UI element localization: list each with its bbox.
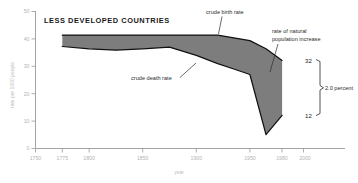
crude-death-rate-leader-line xyxy=(180,63,196,78)
x-tick-label-1950: 1950 xyxy=(244,155,256,161)
x-tick-label-1850: 1850 xyxy=(137,155,149,161)
natural-increase-label-line2: population increase xyxy=(272,36,321,42)
x-tick-label-1750: 1750 xyxy=(30,155,42,161)
y-tick-label-10: 10 xyxy=(24,118,30,124)
y-axis-title: rate per 1000 people xyxy=(9,62,15,108)
x-tick-label-2000: 2000 xyxy=(299,155,311,161)
percent-bracket xyxy=(316,60,324,116)
bracket-span-label: 2.0 percent xyxy=(325,85,353,91)
y-tick-label-30: 30 xyxy=(24,63,30,69)
x-tick-label-1775: 1775 xyxy=(57,155,69,161)
natural-increase-shaded-area xyxy=(62,35,282,135)
annotation-crude-death-rate: crude death rate xyxy=(131,63,196,81)
chart-page: 0 10 20 30 40 50 rate per 1000 people 17… xyxy=(0,0,358,183)
x-axis-ticks: 1750 1775 1800 1850 1900 1950 1980 2000 xyxy=(30,149,311,162)
crude-birth-rate-leader-line xyxy=(219,17,223,35)
x-tick-label-1800: 1800 xyxy=(83,155,95,161)
natural-increase-label-line1: rate of natural xyxy=(272,28,307,34)
bracket-top-value: 32 xyxy=(305,57,312,64)
y-axis-ticks: 0 10 20 30 40 50 xyxy=(24,8,36,151)
bracket-bottom-value: 12 xyxy=(305,112,312,119)
crude-death-rate-label: crude death rate xyxy=(131,75,172,81)
y-tick-label-50: 50 xyxy=(24,8,30,14)
x-tick-label-1980: 1980 xyxy=(276,155,288,161)
x-tick-label-1900: 1900 xyxy=(191,155,203,161)
y-tick-label-20: 20 xyxy=(24,91,30,97)
y-tick-label-40: 40 xyxy=(24,36,30,42)
chart-title: LESS DEVELOPED COUNTRIES xyxy=(44,16,170,25)
crude-birth-rate-label: crude birth rate xyxy=(206,9,244,15)
x-axis-title: year xyxy=(174,169,184,175)
endpoint-bracket-group: 32 12 2.0 percent xyxy=(305,57,353,120)
y-tick-label-0: 0 xyxy=(27,145,30,151)
demographic-transition-chart: 0 10 20 30 40 50 rate per 1000 people 17… xyxy=(0,0,358,183)
annotation-crude-birth-rate: crude birth rate xyxy=(206,9,244,34)
